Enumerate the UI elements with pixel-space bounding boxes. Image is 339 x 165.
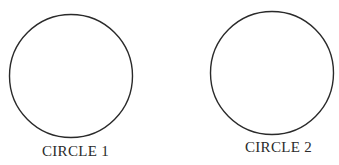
circle-2-label: CIRCLE 2 bbox=[245, 139, 312, 156]
circle-1-label: CIRCLE 1 bbox=[42, 143, 109, 160]
circle-2 bbox=[211, 12, 334, 135]
circle-1 bbox=[10, 15, 133, 138]
